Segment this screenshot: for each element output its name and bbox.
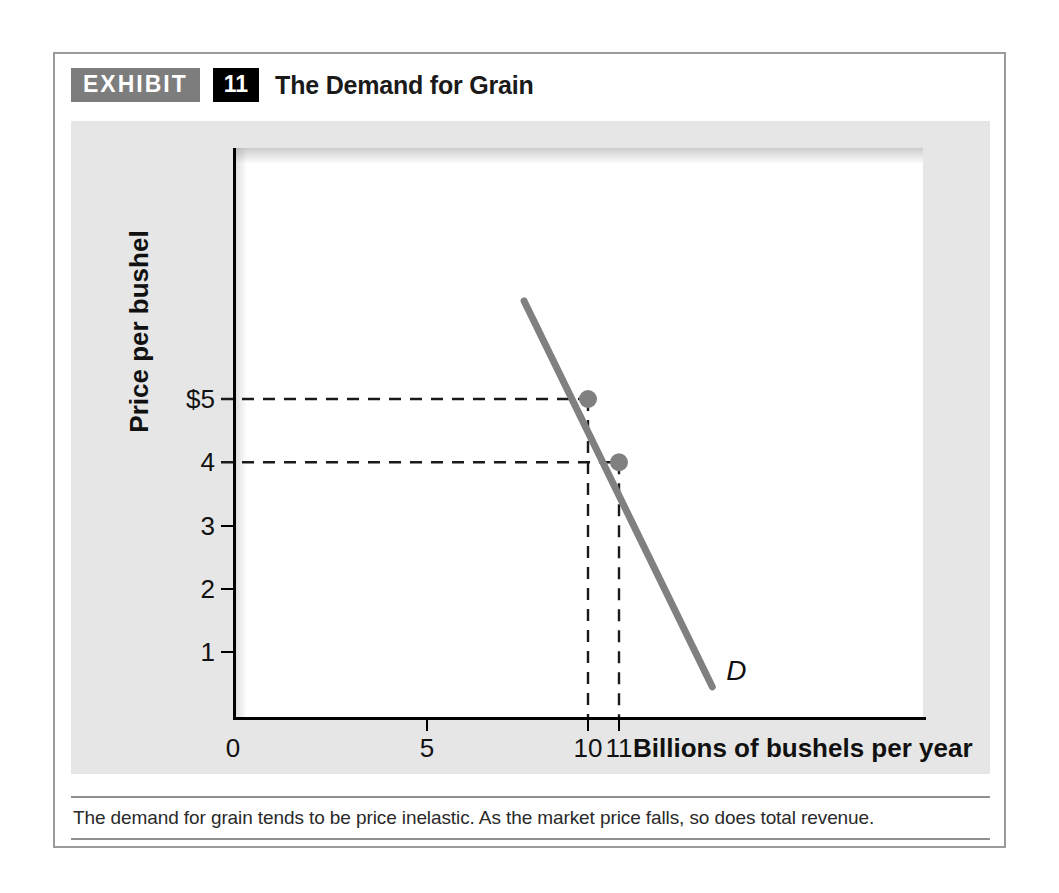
demand-curve-svg [71,121,990,774]
exhibit-frame: EXHIBIT 11 The Demand for Grain 1234$5 0… [53,52,1006,848]
exhibit-header: EXHIBIT 11 The Demand for Grain [71,64,534,106]
data-point-A [579,390,597,408]
y-axis-title: Price per bushel [124,202,155,462]
x-axis-title: Billions of bushels per year [633,733,973,764]
exhibit-badge: EXHIBIT [71,68,200,101]
demand-curve-line [524,301,712,687]
caption-text: The demand for grain tends to be price i… [71,798,990,838]
exhibit-title: The Demand for Grain [275,71,534,100]
exhibit-number-badge: 11 [213,68,259,101]
data-point-B [610,453,628,471]
chart-panel: 1234$5 051011 D Price per bushel Billion… [71,121,990,774]
demand-curve-label: D [726,655,746,687]
demand-curve-group [524,301,712,687]
guide-lines-group [221,399,619,717]
caption-rule-bottom [71,838,990,840]
caption-block: The demand for grain tends to be price i… [71,796,990,840]
